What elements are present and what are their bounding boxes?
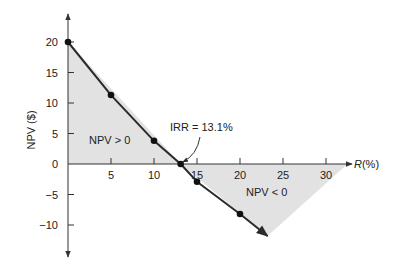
x-tick-label: 25 (277, 169, 289, 181)
x-tick-label: 20 (234, 169, 246, 181)
y-tick-label: −5 (45, 189, 58, 201)
y-tick-label: −10 (39, 219, 58, 231)
y-tick-label: 10 (46, 97, 58, 109)
y-tick-label: 15 (46, 67, 58, 79)
npv-chart: 5101520253020151050−5−10 NPV ($) R(%) NP… (0, 0, 401, 267)
x-tick-label: 10 (148, 169, 160, 181)
x-axis-label-var: R (354, 158, 362, 170)
x-tick-label: 5 (108, 169, 114, 181)
x-tick-label: 30 (320, 169, 332, 181)
data-point (151, 138, 158, 145)
data-point (194, 178, 201, 185)
region-label-negative: NPV < 0 (246, 186, 287, 198)
y-tick-label: 5 (52, 128, 58, 140)
y-axis-label: NPV ($) (25, 110, 37, 149)
data-point (108, 92, 115, 99)
region-label-positive: NPV > 0 (89, 134, 130, 146)
x-axis-label-unit: (%) (362, 158, 379, 170)
y-tick-label: 0 (52, 158, 58, 170)
data-point (65, 39, 72, 46)
data-point (237, 211, 244, 218)
y-tick-label: 20 (46, 36, 58, 48)
irr-annotation: IRR = 13.1% (170, 121, 233, 133)
x-axis-label: R(%) (354, 158, 379, 170)
